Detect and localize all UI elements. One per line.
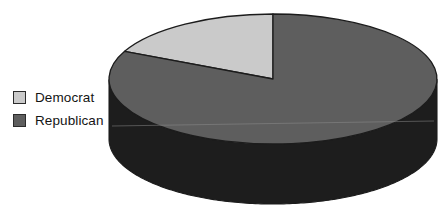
legend-item-republican[interactable]: Republican bbox=[13, 109, 113, 132]
chart-legend: Democrat Republican bbox=[13, 86, 113, 132]
legend-label-republican: Republican bbox=[35, 113, 104, 128]
legend-swatch-republican bbox=[13, 114, 26, 127]
legend-label-democrat: Democrat bbox=[35, 90, 94, 105]
legend-item-democrat[interactable]: Democrat bbox=[13, 86, 113, 109]
legend-swatch-democrat bbox=[13, 91, 26, 104]
pie-chart-figure: Democrat Republican bbox=[0, 0, 447, 217]
